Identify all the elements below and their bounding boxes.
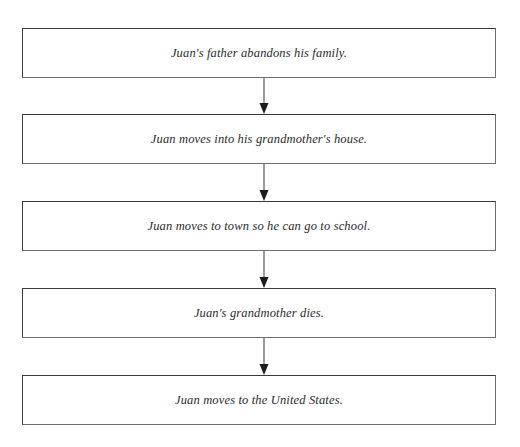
edge-node2-to-node3 [260,164,269,201]
flowchart-node-4-label: Juan's grandmother dies. [194,306,324,321]
edge-node4-to-node5 [260,338,269,375]
edge-node1-to-node2 [260,78,269,114]
flowchart-node-2-label: Juan moves into his grandmother's house. [151,132,367,147]
flowchart-node-4: Juan's grandmother dies. [22,288,496,338]
flowchart-diagram: Juan's father abandons his family. Juan … [0,0,520,447]
flowchart-node-3: Juan moves to town so he can go to schoo… [22,201,496,251]
flowchart-node-2: Juan moves into his grandmother's house. [22,114,496,164]
flowchart-node-3-label: Juan moves to town so he can go to schoo… [148,219,371,234]
flowchart-node-1: Juan's father abandons his family. [22,28,496,78]
flowchart-node-1-label: Juan's father abandons his family. [171,46,347,61]
edge-node3-to-node4 [260,251,269,288]
flowchart-node-5: Juan moves to the United States. [22,375,496,425]
flowchart-node-5-label: Juan moves to the United States. [175,393,343,408]
